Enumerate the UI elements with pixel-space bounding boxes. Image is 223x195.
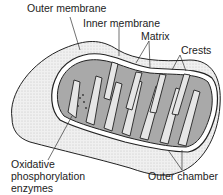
label-inner-membrane: Inner membrane <box>83 17 160 29</box>
label-crests: Crests <box>181 44 211 56</box>
label-outer-chamber: Outer chamber <box>148 170 218 182</box>
label-oxphos-line2: phosphorylation <box>11 170 85 182</box>
label-matrix: Matrix <box>141 30 170 42</box>
mitochondrion-diagram: Outer membrane Inner membrane Matrix Cre… <box>0 0 223 195</box>
label-oxphos-line1: Oxidative <box>11 158 55 170</box>
label-outer-membrane: Outer membrane <box>27 2 106 14</box>
label-oxphos-line3: enzymes <box>11 182 53 194</box>
